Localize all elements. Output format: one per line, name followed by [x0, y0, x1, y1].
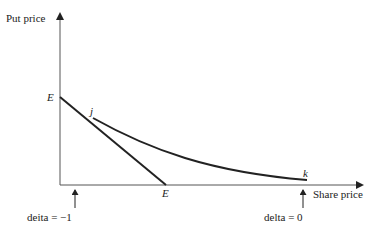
delta-right-label: delta = 0: [264, 211, 303, 223]
intrinsic-value-line: [60, 97, 166, 185]
y-axis-label: Put price: [6, 12, 46, 24]
label-j: j: [88, 105, 93, 117]
delta-left-label: deita = −1: [27, 211, 72, 223]
put-value-curve: [93, 118, 307, 180]
x-axis-label: Share price: [313, 188, 363, 200]
label-k: k: [303, 167, 309, 179]
label-e-x: E: [161, 187, 169, 199]
put-price-chart: Put price Share price E E j k deita = −1…: [0, 0, 375, 235]
label-e-y: E: [46, 91, 54, 103]
